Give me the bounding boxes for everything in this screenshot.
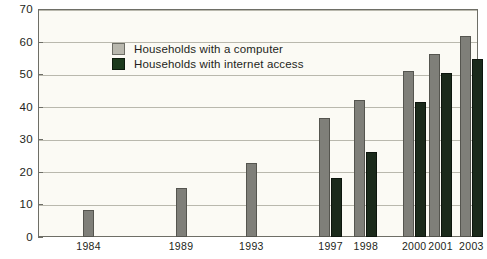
legend-swatch-internet: [112, 58, 125, 70]
bar-chart: 010203040506070 198419891993199719982000…: [0, 0, 487, 259]
legend-label: Households with internet access: [134, 58, 304, 70]
y-axis-tick-mark: [38, 42, 43, 43]
y-axis-tick-label: 50: [3, 68, 33, 80]
bar: [354, 100, 365, 237]
bar: [415, 102, 426, 237]
y-axis-tick-label: 40: [3, 101, 33, 113]
y-axis-tick-label: 70: [3, 3, 33, 15]
legend-label: Households with a computer: [134, 43, 283, 55]
y-axis-tick-label: 20: [3, 166, 33, 178]
bar: [83, 210, 94, 237]
y-axis-tick-mark: [38, 139, 43, 140]
x-axis-tick-label: 1998: [354, 240, 379, 252]
x-axis-tick-label: 1993: [239, 240, 264, 252]
x-axis-tick-label: 1989: [169, 240, 194, 252]
y-axis-tick-mark: [38, 237, 43, 238]
legend-item: Households with a computer: [112, 43, 304, 55]
bar: [331, 178, 342, 237]
legend-swatch-computer: [112, 43, 125, 55]
y-axis-tick-mark: [38, 74, 43, 75]
bar: [429, 54, 440, 237]
y-axis-tick-mark: [38, 204, 43, 205]
bar: [441, 73, 452, 237]
x-axis-tick-label: 2000: [402, 240, 427, 252]
bar: [319, 118, 330, 237]
x-axis-tick-label: 1997: [318, 240, 343, 252]
bar: [472, 59, 483, 237]
bar: [366, 152, 377, 237]
y-axis-tick-label: 10: [3, 198, 33, 210]
x-axis-tick-label: 1984: [76, 240, 101, 252]
y-axis-tick-mark: [38, 9, 43, 10]
x-axis: 19841989199319971998200020012003: [38, 240, 478, 256]
bar: [176, 188, 187, 237]
x-axis-tick-label: 2001: [428, 240, 453, 252]
chart-legend: Households with a computerHouseholds wit…: [112, 43, 304, 73]
y-axis-tick-mark: [38, 172, 43, 173]
y-axis-tick-mark: [38, 107, 43, 108]
bar: [246, 163, 257, 237]
legend-item: Households with internet access: [112, 58, 304, 70]
y-axis-tick-label: 0: [3, 231, 33, 243]
bar: [460, 36, 471, 237]
y-axis-tick-label: 30: [3, 133, 33, 145]
x-axis-tick-label: 2003: [459, 240, 484, 252]
y-axis-tick-label: 60: [3, 36, 33, 48]
bar: [403, 71, 414, 237]
y-axis: 010203040506070: [0, 9, 33, 237]
